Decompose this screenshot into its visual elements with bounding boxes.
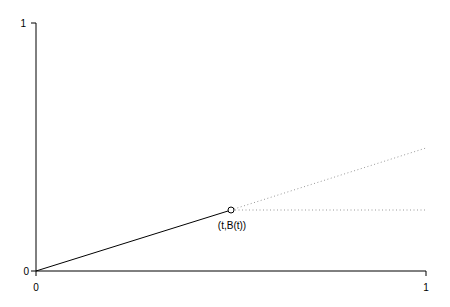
point-marker [228, 207, 234, 213]
x-tick-label-0: 0 [33, 282, 39, 293]
y-tick-label-0: 0 [23, 266, 29, 277]
point-annotation: (t,B(t)) [218, 220, 246, 231]
chart-canvas: 1 0 0 1 (t,B(t)) [0, 0, 450, 307]
linear-extension-dotted [234, 148, 426, 209]
x-tick-label-1: 1 [423, 282, 429, 293]
y-tick-label-1: 1 [20, 18, 26, 29]
path-line [36, 211, 228, 271]
